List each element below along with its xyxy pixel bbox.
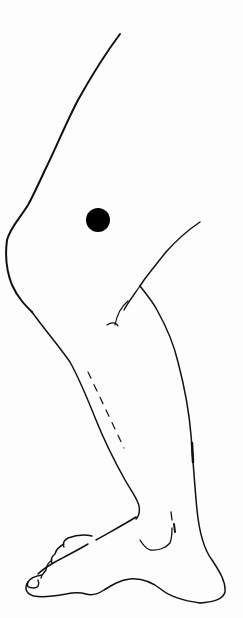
marker-dot <box>86 208 110 232</box>
marker-layer <box>0 0 243 618</box>
leg-drawing: Line drawing of a bent leg (lateral view… <box>0 0 243 618</box>
